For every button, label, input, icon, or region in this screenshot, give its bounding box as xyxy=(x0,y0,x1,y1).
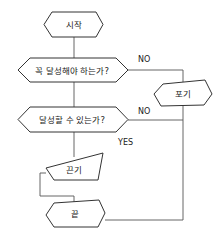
edge-must-no-to-give-up xyxy=(128,70,183,82)
edge-label-can-no: NO xyxy=(138,107,150,116)
start-label: 시작 xyxy=(66,20,82,30)
end-label: 끝 xyxy=(71,209,79,219)
edge-label-must-no: NO xyxy=(138,55,150,64)
decision-must-label: 꼭 달성해야 하는가? xyxy=(35,66,109,76)
edge-label-can-yes: YES xyxy=(117,138,133,147)
node-decision-must: 꼭 달성해야 하는가? xyxy=(18,58,128,82)
node-decision-can: 달성할 수 있는가? xyxy=(18,107,128,132)
flowchart: 시작 꼭 달성해야 하는가? NO 포기 달성할 수 있는가? NO YES 끈… xyxy=(0,0,224,242)
decision-can-label: 달성할 수 있는가? xyxy=(39,115,105,125)
node-persist: 끈기 xyxy=(46,153,103,180)
node-give-up: 포기 xyxy=(154,80,212,106)
give-up-label: 포기 xyxy=(175,89,191,99)
node-start: 시작 xyxy=(44,12,103,37)
node-end: 끝 xyxy=(46,200,105,227)
persist-label: 끈기 xyxy=(66,165,82,175)
